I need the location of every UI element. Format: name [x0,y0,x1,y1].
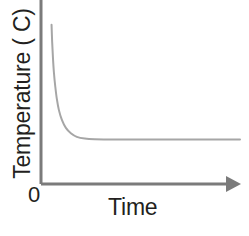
decay-curve-line [52,25,240,140]
y-axis-label: Temperature ( C) [11,2,34,186]
temperature-vs-time-chart: Temperature ( C) Time 0 [0,0,249,236]
x-axis-arrow-icon [226,176,241,192]
x-axis-label: Time [108,196,157,219]
origin-tick-label: 0 [28,184,40,206]
